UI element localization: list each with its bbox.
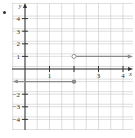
closed-point bbox=[72, 79, 76, 83]
y-tick-label: −3 bbox=[13, 103, 21, 111]
y-tick-label: 4 bbox=[17, 15, 21, 23]
y-tick-label: −2 bbox=[13, 91, 21, 99]
step-function-graph: xy 134−4−3−21234 bbox=[0, 0, 135, 138]
open-point bbox=[72, 54, 76, 58]
left-arrow-icon bbox=[13, 80, 18, 84]
y-tick-label: −4 bbox=[13, 116, 21, 124]
right-arrow-icon bbox=[128, 54, 133, 58]
x-tick-label: 3 bbox=[97, 72, 101, 80]
y-axis-label: y bbox=[18, 3, 22, 9]
x-tick-label: 4 bbox=[121, 72, 125, 80]
x-tick-label: 1 bbox=[48, 72, 52, 80]
y-tick-label: 2 bbox=[17, 40, 21, 48]
y-tick-label: 3 bbox=[17, 28, 21, 36]
x-axis-label: x bbox=[128, 71, 132, 77]
grid bbox=[12, 3, 133, 130]
y-tick-label: 1 bbox=[17, 53, 21, 61]
